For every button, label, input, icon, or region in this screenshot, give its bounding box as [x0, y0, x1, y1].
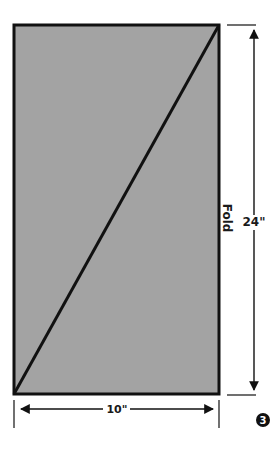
- pattern-diagram: 24" Fold 10" 3: [0, 0, 278, 456]
- fold-label: Fold: [220, 204, 234, 233]
- height-label: 24": [243, 215, 266, 229]
- step-number: 3: [260, 415, 267, 426]
- width-label: 10": [106, 403, 127, 416]
